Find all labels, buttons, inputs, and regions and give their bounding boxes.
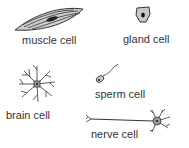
gland-cell-drawing xyxy=(136,7,150,22)
sperm-cell-label: sperm cell xyxy=(95,88,145,100)
brain-cell-label: brain cell xyxy=(6,109,50,121)
gland-cell-label: gland cell xyxy=(123,33,169,45)
cell-diagram xyxy=(0,0,189,148)
muscle-cell-drawing xyxy=(15,8,83,30)
sperm-cell-drawing xyxy=(95,64,118,84)
brain-cell-drawing xyxy=(19,65,55,102)
nerve-cell-label: nerve cell xyxy=(91,128,138,140)
muscle-cell-label: muscle cell xyxy=(22,34,76,46)
